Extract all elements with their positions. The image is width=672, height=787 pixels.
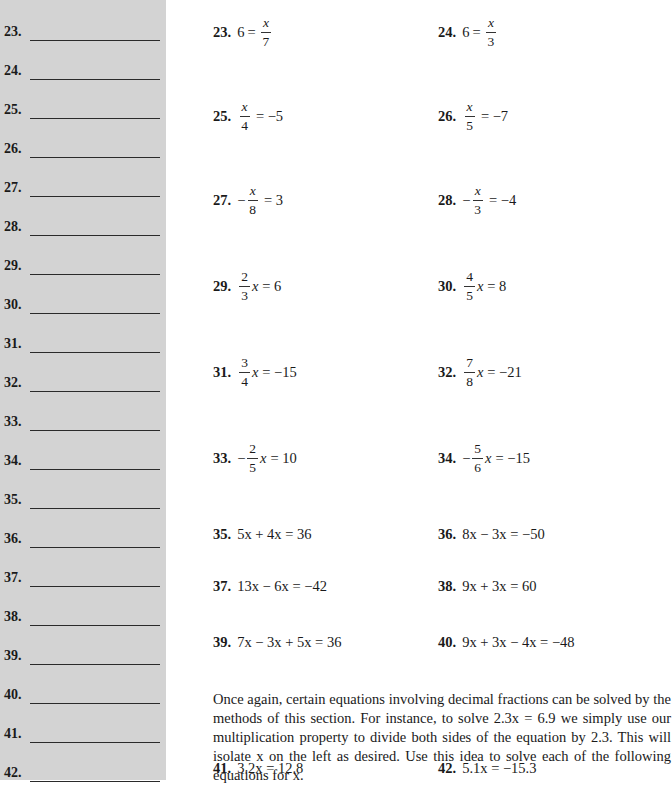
problem-number: 27.: [213, 192, 231, 209]
problem-31: 31. 34 x = −15: [213, 352, 297, 392]
problem-number: 37.: [213, 578, 231, 595]
answer-row: 31.: [4, 334, 160, 354]
answer-blank-line[interactable]: [30, 157, 160, 159]
problem-23: 23. 6 = x7: [213, 12, 273, 52]
answer-blank-line[interactable]: [30, 196, 160, 198]
answer-blank-line[interactable]: [30, 742, 160, 744]
answer-row: 29.: [4, 256, 160, 276]
variable: x: [485, 450, 491, 467]
variable: x: [477, 364, 483, 381]
numerator: x: [473, 184, 483, 201]
answer-number: 36.: [4, 531, 22, 547]
fraction: x4: [239, 100, 250, 132]
answer-blank-line[interactable]: [30, 625, 160, 627]
denominator: 3: [472, 201, 483, 217]
answer-blank-line[interactable]: [30, 352, 160, 354]
rhs: = −21: [487, 364, 521, 381]
equals-sign: =: [247, 24, 255, 41]
answer-row: 42.: [4, 763, 160, 783]
numerator: 2: [239, 270, 250, 287]
rhs: = −7: [481, 108, 508, 125]
equation: 7x − 3x + 5x = 36: [237, 634, 341, 651]
variable: x: [252, 278, 258, 295]
answer-row: 24.: [4, 61, 160, 81]
answer-blank-line[interactable]: [30, 40, 160, 42]
negative-sign: −: [237, 192, 245, 209]
answer-number: 40.: [4, 687, 22, 703]
equation: 9x + 3x = 60: [462, 578, 536, 595]
problem-39: 39. 7x − 3x + 5x = 36: [213, 622, 341, 662]
answer-blank-line[interactable]: [30, 430, 160, 432]
answer-number: 26.: [4, 141, 22, 157]
answer-blank-line[interactable]: [30, 508, 160, 510]
answer-blank-line[interactable]: [30, 781, 160, 783]
answer-blank-line[interactable]: [30, 586, 160, 588]
problem-34: 34. − 56 x = −15: [438, 438, 530, 478]
answer-blank-line[interactable]: [30, 703, 160, 705]
denominator: 8: [464, 373, 475, 389]
problem-number: 25.: [213, 108, 231, 125]
negative-sign: −: [462, 450, 470, 467]
problem-number: 31.: [213, 364, 231, 381]
problem-33: 33. − 25 x = 10: [213, 438, 297, 478]
answer-number: 37.: [4, 570, 22, 586]
answer-blank-line[interactable]: [30, 313, 160, 315]
problem-number: 41.: [213, 760, 231, 777]
rhs: = −15: [262, 364, 296, 381]
answer-number: 31.: [4, 336, 22, 352]
negative-sign: −: [462, 192, 470, 209]
denominator: 7: [261, 33, 272, 49]
fraction: x5: [464, 100, 475, 132]
answer-blank-line[interactable]: [30, 235, 160, 237]
answer-blank-line[interactable]: [30, 118, 160, 120]
answer-blank-line[interactable]: [30, 274, 160, 276]
problem-number: 38.: [438, 578, 456, 595]
answer-blank-line[interactable]: [30, 547, 160, 549]
answer-blank-line[interactable]: [30, 391, 160, 393]
answer-row: 35.: [4, 490, 160, 510]
fraction: x8: [247, 184, 258, 216]
fraction: 56: [472, 442, 483, 474]
answer-number: 39.: [4, 648, 22, 664]
problem-number: 39.: [213, 634, 231, 651]
equation: 5.1x = −15.3: [462, 760, 536, 777]
problem-38: 38. 9x + 3x = 60: [438, 566, 536, 606]
problem-number: 28.: [438, 192, 456, 209]
fraction: x3: [472, 184, 483, 216]
numerator: x: [486, 16, 496, 33]
problem-number: 30.: [438, 278, 456, 295]
answer-blank-line[interactable]: [30, 664, 160, 666]
problem-41: 41. 3.2x = 12.8: [213, 748, 303, 787]
equation: 3.2x = 12.8: [237, 760, 303, 777]
denominator: 8: [247, 201, 258, 217]
answer-number: 42.: [4, 765, 22, 781]
answer-row: 32.: [4, 373, 160, 393]
problem-number: 23.: [213, 24, 231, 41]
answer-number: 23.: [4, 24, 22, 40]
negative-sign: −: [237, 450, 245, 467]
variable: x: [477, 278, 483, 295]
problem-29: 29. 23 x = 6: [213, 266, 281, 306]
numerator: 5: [472, 442, 483, 459]
equation: 5x + 4x = 36: [237, 526, 311, 543]
answer-blank-line[interactable]: [30, 469, 160, 471]
problem-number: 26.: [438, 108, 456, 125]
problem-number: 40.: [438, 634, 456, 651]
answer-row: 30.: [4, 295, 160, 315]
problem-30: 30. 45 x = 8: [438, 266, 506, 306]
fraction: 34: [239, 356, 250, 388]
problem-42: 42. 5.1x = −15.3: [438, 748, 536, 787]
lhs: 6: [462, 24, 469, 41]
rhs: = −15: [496, 450, 530, 467]
denominator: 5: [247, 459, 258, 475]
rhs: = −4: [489, 192, 516, 209]
problem-number: 33.: [213, 450, 231, 467]
problem-number: 32.: [438, 364, 456, 381]
answer-row: 26.: [4, 139, 160, 159]
answer-row: 34.: [4, 451, 160, 471]
problem-32: 32. 78 x = −21: [438, 352, 522, 392]
answer-row: 40.: [4, 685, 160, 705]
answer-blank-line[interactable]: [30, 79, 160, 81]
problem-36: 36. 8x − 3x = −50: [438, 514, 545, 554]
answer-number: 29.: [4, 258, 22, 274]
